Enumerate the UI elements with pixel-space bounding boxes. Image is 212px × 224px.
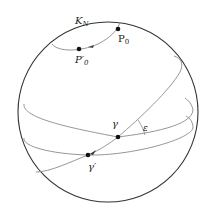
label-gamma-prime: γ′ <box>88 161 97 172</box>
celestial-sphere-diagram: KN P0 P′0 γ γ′ ε <box>0 0 212 224</box>
equator-upper <box>24 98 193 137</box>
point-p0 <box>116 27 121 32</box>
sphere-outline <box>18 22 198 202</box>
gamma-prime-arrow-icon <box>90 150 96 155</box>
label-p0-prime: P′0 <box>74 54 89 67</box>
label-epsilon: ε <box>143 123 148 133</box>
point-p0-prime <box>77 47 82 52</box>
label-kn: KN <box>74 15 89 28</box>
point-gamma-prime <box>86 153 91 158</box>
label-gamma: γ <box>112 118 118 129</box>
label-p0: P0 <box>118 33 129 46</box>
point-gamma <box>116 135 121 140</box>
